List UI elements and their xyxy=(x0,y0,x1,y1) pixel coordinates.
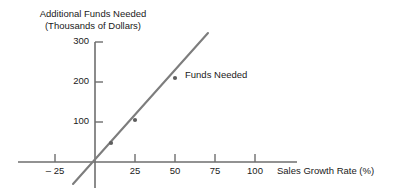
y-axis-tick-label-300: 300 xyxy=(55,36,89,47)
x-axis-title: Sales Growth Rate (%) xyxy=(277,166,374,177)
x-axis-tick-label-100: 100 xyxy=(235,166,275,177)
chart-figure: Additional Funds Needed (Thousands of Do… xyxy=(0,0,397,193)
y-axis-tick-label-100: 100 xyxy=(55,116,89,127)
data-point-marker xyxy=(133,118,137,122)
data-point-marker xyxy=(109,141,113,145)
x-axis-tick-label-50: 50 xyxy=(155,166,195,177)
x-axis-tick-label-75: 75 xyxy=(195,166,235,177)
y-axis-tick-label-200: 200 xyxy=(55,76,89,87)
data-point-marker xyxy=(173,76,177,80)
x-axis-tick-label-minus25: – 25 xyxy=(35,166,75,177)
series-annotation-funds-needed: Funds Needed xyxy=(185,70,247,81)
chart-title-line-1: Additional Funds Needed xyxy=(23,9,163,20)
chart-title-line-2: (Thousands of Dollars) xyxy=(23,21,163,32)
x-axis-tick-label-25: 25 xyxy=(115,166,155,177)
